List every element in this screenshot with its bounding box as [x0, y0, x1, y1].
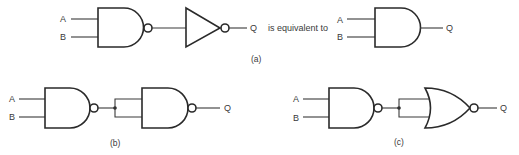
output-q-label: Q: [446, 23, 453, 33]
input-b-label: B: [293, 113, 299, 123]
caption-a: (a): [251, 54, 262, 64]
nand-gate-1-bubble: [90, 104, 98, 112]
input-b-label: B: [337, 32, 343, 42]
nand-gate-body: [98, 8, 144, 47]
nand-gate-1-body: [45, 88, 90, 128]
part-a-left-circuit: A B Q: [60, 8, 257, 47]
nand-gate-2-bubble: [188, 104, 196, 112]
caption-b: (b): [110, 138, 121, 148]
tied-inputs-wire: [399, 99, 429, 117]
part-b-circuit: A B Q: [9, 88, 231, 128]
nand-gate-bubble: [374, 104, 382, 112]
equivalence-text: is equivalent to: [268, 23, 328, 33]
input-a-label: A: [9, 94, 15, 104]
input-b-label: B: [60, 32, 66, 42]
output-q-label: Q: [500, 103, 507, 113]
nor-gate-body: [425, 88, 470, 128]
and-gate-body: [375, 8, 421, 47]
caption-c: (c): [394, 137, 404, 147]
nand-gate-2-body: [142, 88, 188, 128]
nor-gate-bubble: [470, 104, 478, 112]
input-b-label: B: [9, 112, 15, 122]
input-a-label: A: [60, 14, 66, 24]
nand-inversion-bubble: [144, 24, 152, 32]
inverter-bubble: [221, 24, 229, 32]
part-c-circuit: A B Q: [293, 88, 507, 128]
output-q-label: Q: [224, 103, 231, 113]
logic-gate-diagram: A B Q is equivalent to A B Q (a) A B: [0, 0, 519, 155]
inverter-gate-body: [186, 8, 220, 47]
part-a-right-circuit: A B Q: [337, 8, 453, 47]
output-q-label: Q: [250, 23, 257, 33]
input-a-label: A: [293, 94, 299, 104]
input-a-label: A: [337, 15, 343, 25]
tied-inputs-wire: [115, 99, 142, 117]
nand-gate-body: [329, 88, 374, 128]
